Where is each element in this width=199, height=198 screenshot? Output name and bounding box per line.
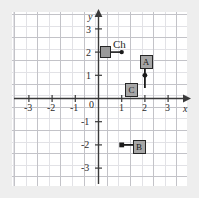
x-axis-arrowhead — [183, 95, 191, 103]
b-point-marker — [119, 143, 124, 148]
x-tick-label-neg3: -3 — [24, 103, 32, 113]
figure-container: -3 -2 -1 0 1 2 3 x 3 2 1 -1 -2 -3 y Ch A… — [0, 0, 199, 198]
a-point-marker — [143, 73, 148, 78]
y-axis-arrowhead — [95, 9, 103, 17]
b-box-label[interactable]: B — [133, 140, 146, 154]
ch-point-marker — [120, 50, 124, 54]
y-tick-label-neg1: -1 — [81, 117, 89, 127]
c-box-label[interactable]: C — [125, 83, 138, 97]
origin-label: 0 — [89, 100, 94, 110]
axes-and-markers-layer — [0, 0, 199, 198]
a-box-label[interactable]: A — [140, 55, 153, 69]
x-tick-label-neg2: -2 — [47, 103, 55, 113]
y-tick-label-neg2: -2 — [81, 140, 89, 150]
y-tick-label-3: 3 — [86, 25, 91, 35]
y-tick-label-2: 2 — [86, 48, 91, 58]
x-tick-label-neg1: -1 — [70, 103, 78, 113]
x-tick-label-3: 3 — [165, 103, 170, 113]
x-axis-name: x — [183, 104, 187, 114]
x-tick-label-2: 2 — [142, 103, 147, 113]
y-tick-label-1: 1 — [86, 71, 91, 81]
y-tick-label-neg3: -3 — [81, 163, 89, 173]
ch-square-marker[interactable] — [100, 46, 112, 58]
x-tick-label-1: 1 — [119, 103, 124, 113]
y-axis-name: y — [88, 12, 92, 22]
ch-label: Ch — [113, 39, 126, 50]
